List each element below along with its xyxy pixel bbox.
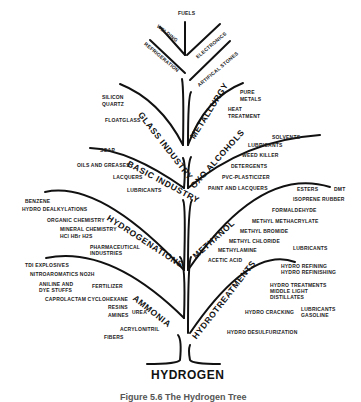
- label-fibers: FIBERS: [104, 334, 124, 340]
- label-fertilizer: FERTILIZER: [92, 283, 123, 289]
- label-hydro-refinishing: HYDRO REFINISHING: [281, 269, 336, 275]
- label-floatglass: FLOATGLASS: [105, 117, 141, 123]
- label-hydro-cracking: HYDRO CRACKING: [245, 309, 294, 315]
- label-resins: RESINS: [108, 304, 128, 310]
- label-nitroaromatics: NITROAROMATICS NO2H: [30, 271, 95, 277]
- label-mineral-chemistry: MINERAL CHEMISTRY: [60, 226, 117, 232]
- label-quartz: QUARTZ: [102, 101, 124, 107]
- label-methyl-methacrylate: METHYL METHACRYLATE: [252, 218, 318, 224]
- label-detergents: DETERGENTS: [231, 163, 267, 169]
- label-dmt: DMT: [334, 186, 345, 192]
- label-distillates: DISTILLATES: [270, 294, 304, 300]
- trunk-top-left: [182, 79, 183, 145]
- label-weed-killer: WEED KILLER: [242, 152, 279, 158]
- label-metals: METALS: [240, 96, 261, 102]
- label-hcl-hbr-h2s: HCl HBr H2S: [60, 233, 92, 239]
- label-amines: AMINES: [108, 312, 129, 318]
- label-organic-chemistry: ORGANIC CHEMISTRY: [47, 217, 105, 223]
- label-lubricants-oxo: LUBRICANTS: [248, 142, 283, 148]
- label-pvc-plasticizer: PVC-PLASTICIZER: [222, 174, 270, 180]
- label-hydro-desulfurization: HYDRO DESULFURIZATION: [227, 329, 298, 335]
- label-methyl-bromide: METHYL BROMIDE: [240, 228, 288, 234]
- root-left: [147, 335, 181, 364]
- label-dye-stuffs: DYE STUFFS: [39, 287, 72, 293]
- label-pure: PURE: [240, 89, 255, 95]
- label-caprolactam: CAPROLACTAM CYCLOHEXANE: [45, 296, 128, 302]
- label-paint-lacquers: PAINT AND LACQUERS: [208, 185, 268, 191]
- root-label-hydrogen: HYDROGEN: [151, 368, 224, 382]
- trunk-base-right: [188, 257, 191, 333]
- label-acrylonitril: ACRYLONITRIL: [120, 326, 159, 332]
- label-formaldehyde: FORMALDEHYDE: [272, 207, 317, 213]
- label-industries: INDUSTRIES: [90, 250, 122, 256]
- label-methyl-chloride: METHYL CHLORIDE: [229, 238, 280, 244]
- label-lubricants-basic: LUBRICANTS: [127, 187, 162, 193]
- label-solvents: SOLVENTS: [272, 134, 300, 140]
- figure-caption: Figure 5.6 The Hydrogen Tree: [120, 392, 247, 402]
- label-isoprene-rubber: ISOPRENE RUBBER: [293, 196, 345, 202]
- label-lubricants-methanol: LUBRICANTS: [293, 245, 328, 251]
- label-methylamine: METHYLAMINE: [218, 247, 257, 253]
- root-right: [189, 345, 220, 364]
- label-gasoline: GASOLINE: [301, 312, 329, 318]
- label-acetic-acid: ACETIC ACID: [208, 257, 242, 263]
- label-silicon: SILICON: [102, 94, 124, 100]
- label-oils-greases: OILS AND GREASES: [77, 162, 130, 168]
- label-benzene: BENZENE: [25, 198, 50, 204]
- label-lacquers: LACQUERS: [113, 174, 143, 180]
- label-soap: SOAP: [100, 147, 115, 153]
- label-treatment: TREATMENT: [228, 113, 260, 119]
- label-hydro-dealkylations: HYDRO DEALKYLATIONS: [22, 206, 87, 212]
- label-esters: ESTERS: [297, 186, 318, 192]
- label-heat: HEAT: [228, 106, 242, 112]
- label-tdi-explosives: TDI EXPLOSIVES: [25, 262, 69, 268]
- label-fuels: FUELS: [178, 10, 195, 16]
